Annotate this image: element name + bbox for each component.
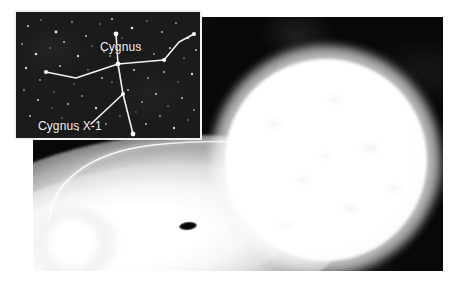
star-sadr bbox=[116, 62, 121, 67]
star-albireo bbox=[131, 132, 136, 137]
star-cygnus-x-1 bbox=[121, 92, 125, 96]
cygnus-x1-label: Cygnus X-1 bbox=[38, 120, 102, 132]
constellation-label: Cygnus bbox=[100, 41, 141, 53]
star-gienah bbox=[44, 70, 48, 74]
gas-stream-path bbox=[49, 142, 301, 222]
line-left-wing bbox=[46, 64, 118, 78]
gas-stream-halo bbox=[49, 142, 301, 222]
star-delta-cygni bbox=[162, 58, 166, 62]
background-star-field bbox=[21, 18, 197, 131]
star-deneb bbox=[114, 32, 119, 37]
constellation-inset-panel: Cygnus Cygnus X-1 bbox=[14, 10, 202, 140]
star-wing-tip-right bbox=[192, 32, 196, 36]
figure-canvas: Cygnus Cygnus X-1 bbox=[0, 0, 470, 284]
line-long-axis-lower bbox=[118, 64, 133, 134]
